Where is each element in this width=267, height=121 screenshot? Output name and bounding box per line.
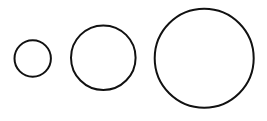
- circle-large: [155, 9, 254, 108]
- circles-diagram: [0, 0, 267, 121]
- circle-medium: [71, 25, 136, 90]
- circle-small: [15, 40, 51, 76]
